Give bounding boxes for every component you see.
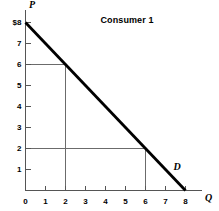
x-tick-label: 4 [99,197,113,206]
x-tick-label: 2 [59,197,73,206]
y-axis-label: P [29,0,35,10]
x-tick-label: 8 [179,197,193,206]
guide-lines-group [26,65,146,191]
y-tick-label: $8 [0,18,22,27]
x-tick-label: 3 [79,197,93,206]
y-tick-label: 5 [0,81,22,90]
x-tick-label: 6 [139,197,153,206]
demand-curve-line [26,23,186,191]
y-tick-label: 2 [0,144,22,153]
y-tick-label: 4 [0,102,22,111]
plot-area [0,0,219,211]
x-tick-label: 1 [39,197,53,206]
x-axis-label: Q [205,192,212,203]
y-tick-label: 1 [0,165,22,174]
y-tick-label: 6 [0,60,22,69]
x-tick-label: 0 [19,197,33,206]
x-tick-label: 7 [159,197,173,206]
data-series-group [26,23,186,191]
demand-curve-label: D [174,161,181,172]
y-tick-label: 7 [0,39,22,48]
y-tick-label: 3 [0,123,22,132]
demand-curve-chart: Consumer 1 P Q D $87654321 012345678 [0,0,219,211]
x-tick-label: 5 [119,197,133,206]
